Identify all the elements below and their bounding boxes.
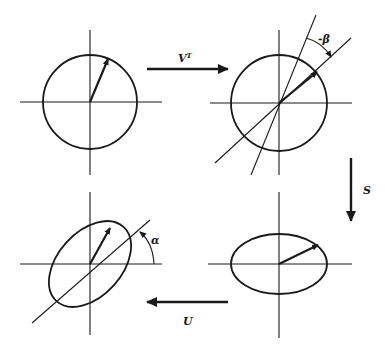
vector-arrow <box>279 72 317 103</box>
vt-label: VT <box>178 51 193 65</box>
svd-diagram: VT -β S U α <box>0 0 385 348</box>
panel-original <box>20 30 162 175</box>
transition-vt: VT <box>147 51 228 69</box>
u-label: U <box>183 315 194 328</box>
transition-u: U <box>147 302 228 328</box>
panel-rotated: -β <box>210 15 352 175</box>
s-label: S <box>363 184 371 197</box>
vector-arrow <box>90 59 108 102</box>
panel-final: α <box>20 192 162 335</box>
alpha-label: α <box>151 234 160 247</box>
panel-scaled <box>208 192 352 338</box>
transition-s: S <box>351 158 371 221</box>
vector-arrow <box>279 245 318 264</box>
vector-arrow <box>90 228 110 264</box>
beta-label: -β <box>318 33 331 46</box>
